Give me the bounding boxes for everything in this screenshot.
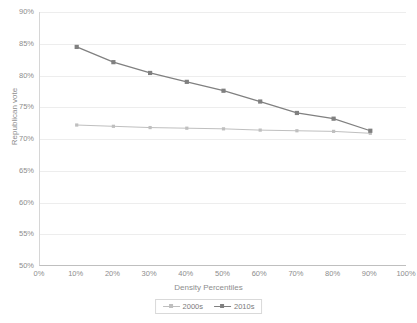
data-point-marker <box>259 129 262 132</box>
data-point-marker <box>185 80 189 84</box>
x-tick-label: 10% <box>56 269 96 278</box>
data-point-marker <box>258 99 262 103</box>
x-tick-label: 100% <box>386 269 417 278</box>
x-tick-label: 50% <box>203 269 243 278</box>
data-point-marker <box>332 117 336 121</box>
x-tick-label: 80% <box>313 269 353 278</box>
series-canvas <box>40 12 407 266</box>
legend-label: 2010s <box>234 302 254 311</box>
y-axis-title: Republican vote <box>10 47 19 187</box>
y-tick-label: 55% <box>0 230 34 238</box>
y-tick-label: 60% <box>0 199 34 207</box>
x-tick-label: 30% <box>129 269 169 278</box>
data-point-marker <box>149 126 152 129</box>
data-point-marker <box>75 45 79 49</box>
y-tick-label: 90% <box>0 8 34 16</box>
chart-legend: 2000s2010s <box>155 299 263 314</box>
x-tick-label: 20% <box>92 269 132 278</box>
data-point-marker <box>368 129 372 133</box>
legend-label: 2000s <box>183 302 203 311</box>
legend-swatch-icon <box>214 303 231 311</box>
x-tick-label: 90% <box>349 269 389 278</box>
legend-entry-2000s[interactable]: 2000s <box>163 302 203 311</box>
line-chart: 50%55%60%65%70%75%80%85%90% Republican v… <box>0 0 417 323</box>
data-point-marker <box>332 130 335 133</box>
x-tick-label: 40% <box>166 269 206 278</box>
data-point-marker <box>148 71 152 75</box>
data-point-marker <box>295 111 299 115</box>
legend-entry-2010s[interactable]: 2010s <box>214 302 254 311</box>
data-point-marker <box>185 127 188 130</box>
x-tick-label: 70% <box>276 269 316 278</box>
data-point-marker <box>111 60 115 64</box>
plot-area <box>39 12 406 266</box>
x-axis: 0%10%20%30%40%50%60%70%80%90%100% <box>0 269 417 281</box>
data-point-marker <box>222 127 225 130</box>
data-point-marker <box>221 89 225 93</box>
x-tick-label: 0% <box>19 269 59 278</box>
data-point-marker <box>112 125 115 128</box>
x-axis-title: Density Percentiles <box>0 283 417 292</box>
data-point-marker <box>295 129 298 132</box>
data-point-marker <box>75 123 78 126</box>
x-tick-label: 60% <box>239 269 279 278</box>
legend-swatch-icon <box>163 303 180 311</box>
